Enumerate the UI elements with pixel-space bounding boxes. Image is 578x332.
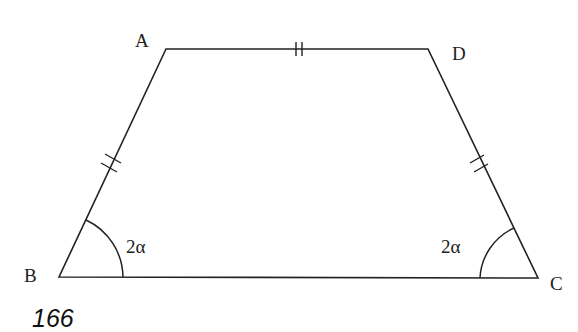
equal-mark-AB <box>101 154 121 172</box>
angle-arc-C <box>480 228 514 278</box>
vertex-label-A: A <box>135 30 149 51</box>
vertex-label-B: B <box>24 265 37 286</box>
vertex-label-C: C <box>550 273 563 294</box>
angle-label-B: 2α <box>126 236 146 257</box>
angle-label-C: 2α <box>441 236 461 257</box>
vertex-label-D: D <box>452 43 466 64</box>
trapezoid-diagram: A D B C 2α 2α 166 <box>0 0 578 332</box>
angle-arc-B <box>86 220 123 277</box>
page-number: 166 <box>32 304 74 332</box>
